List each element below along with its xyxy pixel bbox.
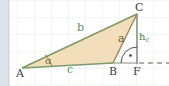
page-edge-line (8, 0, 10, 86)
side-label-c: c (67, 64, 73, 75)
vertex-label-f: F (133, 66, 141, 77)
vertex-label-b: B (109, 66, 117, 77)
vertex-label-c: C (135, 2, 143, 13)
altitude-subscript: c (145, 36, 149, 44)
geometry-figure: A B C F b c a hc α (0, 0, 169, 86)
side-label-b: b (77, 22, 84, 33)
figure-canvas (0, 0, 169, 86)
side-label-a: a (118, 33, 125, 44)
page-edge-strip (0, 0, 8, 86)
altitude-label: hc (139, 32, 149, 42)
vertex-label-a: A (16, 68, 24, 79)
alpha-angle-label: α (45, 56, 52, 66)
right-angle-dot-icon (129, 54, 132, 57)
